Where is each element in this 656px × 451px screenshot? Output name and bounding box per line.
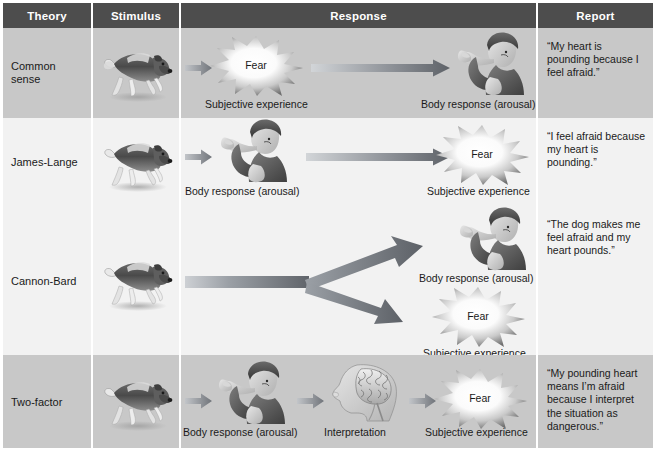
starburst-fear-icon: Fear	[433, 368, 528, 430]
column-header-report: Report	[538, 3, 653, 28]
row-3-caption-body-response: Body response (arousal)	[419, 272, 533, 284]
row-2-theory-cell: James-Lange	[3, 118, 93, 206]
column-header-stimulus: Stimulus	[93, 3, 181, 28]
starburst-fear-icon: Fear	[431, 286, 526, 348]
column-header-theory: Theory	[3, 3, 93, 28]
row-1-theory-label: Common sense	[11, 60, 56, 86]
row-1-caption-subjective-experience: Subjective experience	[205, 98, 308, 110]
row-2-report-cell: “I feel afraid because my heart is pound…	[538, 118, 653, 206]
arrow-stimulus-to-step1	[185, 393, 213, 413]
row-1-theory-cell: Common sense	[3, 28, 93, 118]
row-3-response-cell: Body response (arousal) Fear Subjective …	[181, 206, 538, 355]
row-3-theory-label: Cannon-Bard	[11, 274, 76, 287]
row-4-caption-interpretation: Interpretation	[324, 426, 386, 438]
row-4-caption-body-response: Body response (arousal)	[183, 426, 297, 438]
row-2-theory-label: James-Lange	[11, 156, 78, 169]
row-1-response-cell: Fear Subjective experience	[181, 28, 538, 118]
starburst-fear-text: Fear	[245, 59, 267, 71]
row-2-caption-subjective-experience: Subjective experience	[427, 185, 530, 197]
figure-canvas: Theory Stimulus Response Report Common s…	[0, 0, 656, 451]
column-header-stimulus-label: Stimulus	[111, 10, 161, 22]
row-2-response-cell: Body response (arousal) Fear Subjective …	[181, 118, 538, 206]
frightened-person-icon	[217, 360, 287, 428]
column-header-response: Response	[181, 3, 538, 28]
row-2-report-text: “I feel afraid because my heart is pound…	[547, 130, 647, 170]
row-4-stimulus-cell	[93, 355, 181, 448]
running-dog-icon	[101, 38, 173, 104]
table-row: Two-factor	[3, 355, 653, 448]
emotion-theories-table: Theory Stimulus Response Report Common s…	[3, 3, 653, 448]
frightened-person-icon	[456, 31, 526, 99]
row-1-report-cell: “My heart is pounding because I feel afr…	[538, 28, 653, 118]
row-1-report-text: “My heart is pounding because I feel afr…	[547, 40, 647, 80]
row-2-stimulus-cell	[93, 118, 181, 206]
row-3-stimulus-cell	[93, 206, 181, 355]
frightened-person-icon	[219, 118, 289, 186]
column-header-theory-label: Theory	[27, 10, 67, 22]
running-dog-icon	[101, 367, 173, 433]
row-1-caption-body-response: Body response (arousal)	[421, 98, 535, 110]
row-4-report-text: “My pounding heart means I’m afraid beca…	[547, 367, 647, 433]
running-dog-icon	[101, 247, 173, 313]
row-4-response-cell: Body response (arousal)	[181, 355, 538, 448]
row-1-stimulus-cell	[93, 28, 181, 118]
starburst-fear-text: Fear	[469, 392, 491, 404]
row-4-theory-cell: Two-factor	[3, 355, 93, 448]
arrow-step1-to-step2	[311, 59, 451, 81]
row-4-report-cell: “My pounding heart means I’m afraid beca…	[538, 355, 653, 448]
starburst-fear-text: Fear	[467, 310, 489, 322]
row-4-theory-label: Two-factor	[11, 395, 62, 408]
column-header-report-label: Report	[576, 10, 614, 22]
arrow-step1-to-step2	[306, 148, 451, 170]
row-3-report-cell: “The dog makes me feel afraid and my hea…	[538, 206, 653, 355]
starburst-fear-icon: Fear	[435, 124, 530, 186]
table-row: James-Lange	[3, 118, 653, 206]
frightened-person-icon	[458, 206, 528, 274]
row-3-theory-cell: Cannon-Bard	[3, 206, 93, 355]
row-3-report-text: “The dog makes me feel afraid and my hea…	[547, 218, 647, 258]
row-1-theory-line2: sense	[11, 73, 56, 86]
row-1-theory-line1: Common	[11, 60, 56, 73]
column-header-response-label: Response	[330, 10, 387, 22]
starburst-fear-icon: Fear	[209, 35, 304, 97]
row-4-caption-subjective-experience: Subjective experience	[425, 426, 528, 438]
running-dog-icon	[101, 128, 173, 194]
starburst-fear-text: Fear	[471, 148, 493, 160]
table-row: Common sense	[3, 28, 653, 118]
row-2-caption-body-response: Body response (arousal)	[185, 185, 299, 197]
brain-head-profile-icon	[327, 363, 401, 425]
arrow-step1-to-step2	[297, 393, 325, 413]
table-row: Cannon-Bard	[3, 206, 653, 355]
arrow-stimulus-to-step1	[185, 149, 213, 169]
